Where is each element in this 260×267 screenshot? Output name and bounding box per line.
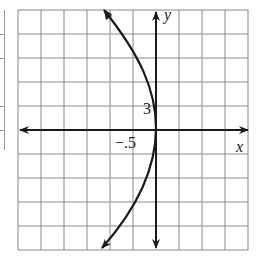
intercept-label-neg-half: −.5 <box>115 134 136 152</box>
intercept-label-3: 3 <box>143 100 151 118</box>
x-axis-label: x <box>236 138 243 156</box>
y-axis-label: y <box>164 6 171 24</box>
